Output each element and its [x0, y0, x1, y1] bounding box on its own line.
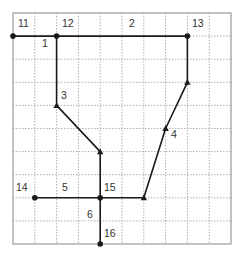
edge-label-6: 6 [87, 208, 93, 220]
node-label-13: 13 [192, 17, 204, 29]
node-15-dot-icon [97, 195, 103, 201]
node-label-12: 12 [62, 17, 74, 29]
edge-label-5a: 5 [62, 181, 68, 193]
labels: 111213141516123456 [16, 17, 204, 239]
edge-label-2: 2 [129, 17, 135, 29]
edge-label-4b: 4 [171, 128, 177, 140]
node-11-dot-icon [10, 33, 16, 39]
node-16-dot-icon [97, 241, 103, 247]
node-label-11: 11 [18, 17, 29, 29]
node-label-16: 16 [104, 227, 116, 239]
node-13-dot-icon [185, 33, 191, 39]
node-14-dot-icon [32, 195, 38, 201]
node-label-15: 15 [104, 181, 116, 193]
node-12-dot-icon [54, 33, 60, 39]
edge-4c [144, 129, 166, 198]
edge-label-3a: 3 [61, 89, 67, 101]
node-label-14: 14 [16, 181, 28, 193]
edge-label-1: 1 [42, 37, 48, 49]
network-diagram: 111213141516123456 [0, 0, 242, 258]
